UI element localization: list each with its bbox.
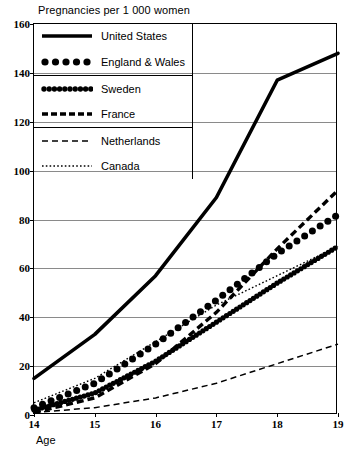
chart-legend: United StatesEngland & WalesSwedenFrance… bbox=[33, 23, 193, 179]
legend-item-label: United States bbox=[101, 30, 167, 42]
series-france bbox=[34, 190, 338, 412]
y-tick-label: 140 bbox=[14, 67, 31, 79]
x-axis-label: Age bbox=[36, 434, 56, 446]
chart-title: Pregnancies per 1 000 women bbox=[38, 4, 190, 16]
series-england-wales bbox=[31, 213, 340, 412]
small-dots-thick-icon bbox=[41, 82, 93, 96]
legend-item[interactable]: Sweden bbox=[33, 75, 193, 101]
legend-item-label: Sweden bbox=[101, 83, 141, 95]
legend-item-label: Netherlands bbox=[101, 135, 160, 147]
y-tick-label: 160 bbox=[14, 18, 31, 30]
legend-item[interactable]: Netherlands bbox=[33, 127, 193, 153]
x-tick-label: 17 bbox=[211, 418, 222, 430]
large-dots-icon bbox=[41, 55, 93, 69]
y-tick-label: 80 bbox=[19, 214, 30, 226]
legend-item[interactable]: England & Wales bbox=[33, 49, 193, 75]
legend-item-label: Canada bbox=[101, 160, 140, 172]
x-tick-mark bbox=[338, 413, 339, 417]
x-tick-label: 19 bbox=[333, 418, 344, 430]
solid-thick-icon bbox=[41, 29, 93, 43]
chart-figure: Pregnancies per 1 000 women 020406080100… bbox=[0, 0, 351, 455]
legend-item-label: England & Wales bbox=[101, 56, 185, 68]
x-tick-label: 14 bbox=[29, 418, 40, 430]
x-tick-label: 15 bbox=[89, 418, 100, 430]
thin-dashed-icon bbox=[41, 134, 93, 148]
legend-item[interactable]: Canada bbox=[33, 153, 193, 179]
x-tick-label: 18 bbox=[272, 418, 283, 430]
y-tick-label: 100 bbox=[14, 165, 31, 177]
y-tick-label: 120 bbox=[14, 116, 31, 128]
legend-item-label: France bbox=[101, 108, 135, 120]
dotted-icon bbox=[41, 159, 93, 173]
y-tick-label: 60 bbox=[19, 262, 30, 274]
y-tick-label: 20 bbox=[19, 360, 30, 372]
legend-item[interactable]: United States bbox=[33, 23, 193, 49]
thick-dashed-icon bbox=[41, 107, 93, 121]
legend-item[interactable]: France bbox=[33, 101, 193, 127]
y-tick-label: 40 bbox=[19, 311, 30, 323]
x-tick-label: 16 bbox=[150, 418, 161, 430]
